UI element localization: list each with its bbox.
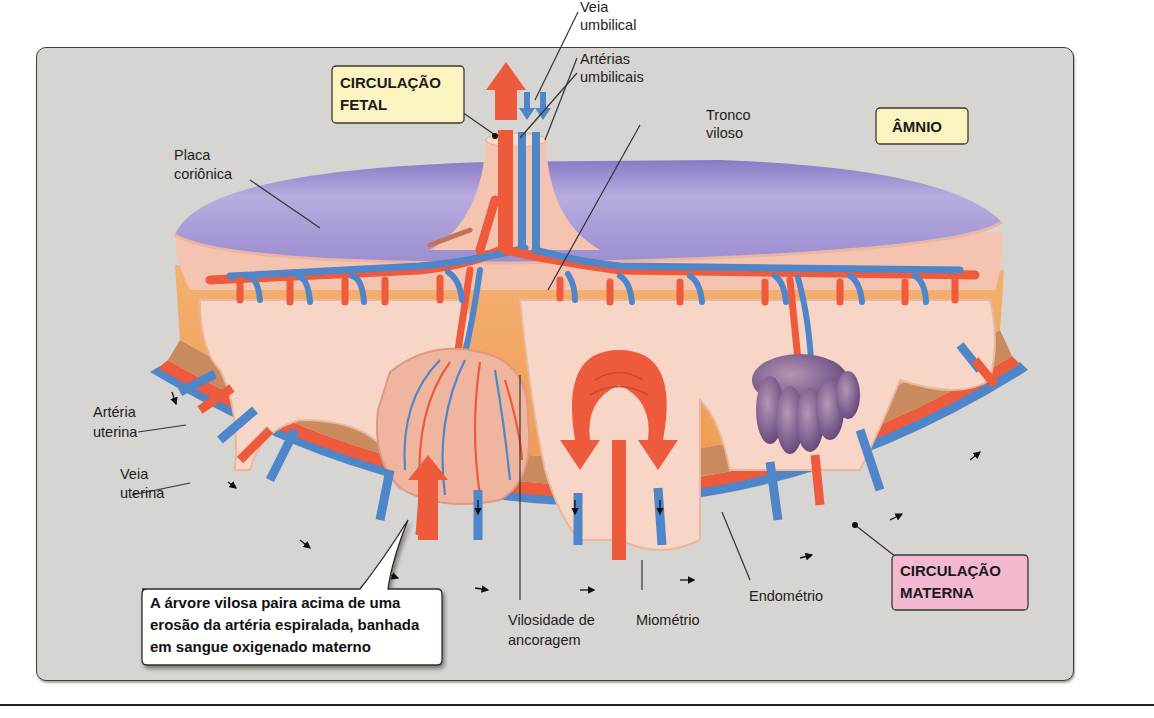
label-umbilical-arteries-1: Artérias — [580, 51, 630, 67]
label-anchoring-villus-2: ancoragem — [508, 632, 581, 648]
label-endometrium: Endométrio — [749, 588, 823, 604]
villous-tree-left — [377, 349, 529, 504]
fetal-box-line2: FETAL — [340, 96, 387, 113]
fetal-outflow-arrow — [486, 62, 526, 120]
maternal-box-line2: MATERNA — [900, 584, 974, 601]
label-uterine-vein-1: Veia — [120, 466, 149, 482]
maternal-box-line1: CIRCULAÇÃO — [900, 562, 1001, 579]
fetal-box-line1: CIRCULAÇÃO — [340, 74, 441, 91]
label-chorionic-plate-1: Placa — [174, 147, 211, 163]
placenta-diagram: CIRCULAÇÃO FETAL ÂMNIO CIRCULAÇÃO MATERN… — [0, 0, 1154, 718]
label-uterine-vein-2: uterina — [120, 485, 165, 501]
maternal-circulation-box: CIRCULAÇÃO MATERNA — [892, 555, 1028, 610]
callout-line-3: em sangue oxigenado materno — [150, 638, 371, 655]
label-chorionic-plate-2: coriônica — [174, 166, 233, 182]
umbilical-vein-vessel — [498, 130, 513, 250]
label-umbilical-vein-2: umbilical — [580, 17, 636, 33]
label-stem-villus-1: Tronco — [706, 107, 751, 123]
label-uterine-artery-1: Artéria — [93, 404, 137, 420]
label-umbilical-vein-1: Veia — [580, 0, 609, 15]
label-uterine-artery-2: uterina — [93, 424, 138, 440]
label-myometrium: Miométrio — [636, 612, 700, 628]
label-anchoring-villus-1: Vilosidade de — [508, 612, 595, 628]
label-stem-villus-2: viloso — [706, 125, 743, 141]
arterial-inflow-arrow-1 — [519, 92, 535, 120]
callout-line-2: erosão da artéria espiralada, banhada — [150, 616, 420, 633]
fetal-circulation-box: CIRCULAÇÃO FETAL — [332, 66, 464, 123]
label-umbilical-arteries-2: umbilicais — [580, 69, 644, 85]
callout-line-1: A árvore vilosa paira acima de uma — [150, 594, 401, 611]
amnion-box: ÂMNIO — [876, 108, 968, 144]
amnion-label: ÂMNIO — [892, 118, 942, 135]
